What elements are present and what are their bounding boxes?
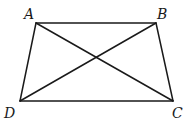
diagonal-ac — [36, 23, 173, 101]
edge-da — [20, 23, 36, 101]
edge-bc — [156, 23, 173, 101]
vertex-label-a: A — [22, 6, 34, 22]
edges — [20, 23, 173, 101]
vertex-label-d: D — [3, 105, 15, 120]
vertex-label-b: B — [156, 6, 167, 22]
trapezoid-diagram: A B C D — [0, 0, 189, 120]
diagonal-bd — [20, 23, 156, 101]
vertex-label-c: C — [172, 105, 183, 120]
